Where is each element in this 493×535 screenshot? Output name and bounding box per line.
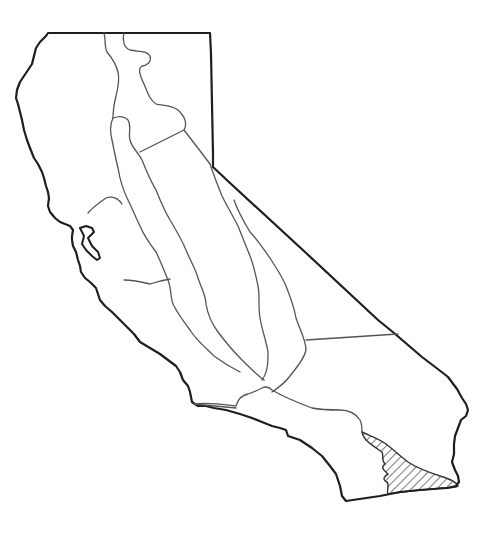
region-boundary-modoc <box>123 33 185 130</box>
highlighted-region <box>362 432 458 494</box>
region-boundary-bay-north <box>88 197 122 213</box>
region-boundary-link <box>184 130 210 164</box>
region-boundary-cascade-sierra <box>140 130 184 152</box>
region-boundary-valley-west <box>113 117 264 380</box>
region-boundary-bay-south <box>124 279 170 284</box>
region-boundary-klamath <box>104 33 119 118</box>
region-boundary-coast-range <box>111 118 240 372</box>
region-boundary-basin-range <box>306 334 398 340</box>
region-boundary-sierra-inner <box>210 164 268 380</box>
state-outline <box>16 33 468 501</box>
san-francisco-bay <box>80 226 100 260</box>
california-map <box>0 0 493 535</box>
